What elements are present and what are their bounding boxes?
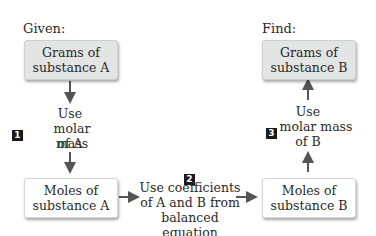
box-text: substance B bbox=[271, 198, 348, 213]
grams-substance-a-box: Grams of substance A bbox=[24, 40, 118, 80]
step-2-line3: balanced equation bbox=[134, 210, 246, 236]
moles-substance-b-box: Moles of substance B bbox=[262, 178, 356, 218]
box-text: Moles of bbox=[44, 183, 98, 198]
box-text: substance A bbox=[33, 198, 110, 213]
grams-substance-b-box: Grams of substance B bbox=[262, 40, 356, 80]
step-3-line2: molar mass bbox=[276, 119, 356, 134]
box-text: Grams of bbox=[280, 45, 338, 60]
step-badge: 1 bbox=[12, 130, 23, 141]
step-2-line2: of A and B from bbox=[134, 195, 246, 210]
moles-substance-a-box: Moles of substance A bbox=[24, 178, 118, 218]
box-text: substance B bbox=[271, 60, 348, 75]
step-3-line1: Use bbox=[278, 104, 338, 119]
step-2-line1: Use coefficients bbox=[134, 180, 246, 195]
step-3-line3: of B bbox=[278, 134, 338, 149]
step-1-line3: of A bbox=[40, 136, 100, 151]
step-1-badge: 1 bbox=[12, 123, 23, 142]
box-text: Moles of bbox=[282, 183, 336, 198]
box-text: substance A bbox=[33, 60, 110, 75]
find-label: Find: bbox=[262, 22, 296, 36]
box-text: Grams of bbox=[42, 45, 100, 60]
step-1-line1: Use bbox=[40, 106, 100, 121]
given-label: Given: bbox=[23, 22, 65, 36]
